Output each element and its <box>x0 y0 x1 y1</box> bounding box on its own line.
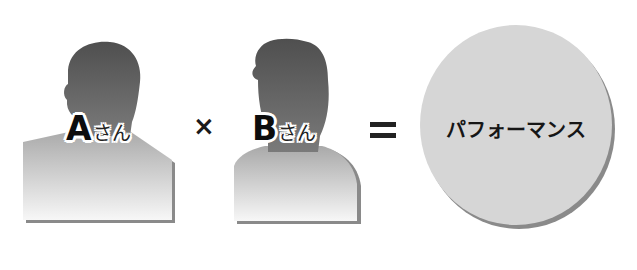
person-b-suffix: さん <box>278 124 316 143</box>
result-circle: パフォーマンス <box>420 25 612 225</box>
equals-bar-top <box>370 122 396 127</box>
person-a-label: A さん <box>66 112 131 145</box>
equals-operator: = <box>370 122 396 140</box>
multiply-operator: × <box>193 113 215 139</box>
equals-bar-bottom <box>370 133 396 138</box>
result-label: パフォーマンス <box>446 114 586 143</box>
person-b-figure: B さん <box>230 36 370 230</box>
person-a-suffix: さん <box>93 124 131 143</box>
person-a-figure: A さん <box>20 40 180 230</box>
person-b-label: B さん <box>252 112 316 145</box>
person-b-letter: B <box>252 112 277 145</box>
person-a-letter: A <box>66 112 92 145</box>
